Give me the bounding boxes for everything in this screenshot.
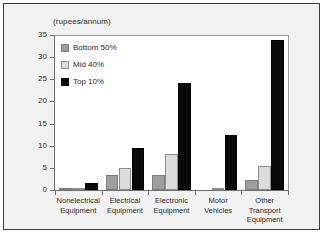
y-axis-tick-label: 30 <box>25 53 47 61</box>
y-axis-tick-label: 35 <box>25 31 47 39</box>
x-axis-category-label: ElectricalEquipment <box>102 196 149 215</box>
bar-0-2 <box>152 175 165 191</box>
bar-0-0 <box>59 188 72 190</box>
bar-2-1 <box>132 148 145 191</box>
legend-label: Mid 40% <box>73 60 104 69</box>
bar-1-4 <box>258 166 271 190</box>
category-label-line: Vehicles <box>195 206 242 216</box>
legend-item: Bottom 50% <box>61 41 135 54</box>
bar-1-2 <box>165 154 178 190</box>
category-label-line: Nonelectrical <box>55 196 102 206</box>
x-axis-tick <box>195 191 196 195</box>
x-axis-category-label: OtherTransportEquipment <box>241 196 288 225</box>
category-label-line: Equipment <box>102 206 149 216</box>
y-axis-tick-label: 5 <box>25 164 47 172</box>
y-axis-tick-label: 0 <box>25 186 47 194</box>
units-caption: (rupees/annum) <box>53 17 111 26</box>
legend-swatch-icon <box>61 44 69 52</box>
bar-chart: (rupees/annum) 05101520253035 Bottom 50%… <box>0 0 325 235</box>
y-axis-tick-label: 20 <box>25 97 47 105</box>
y-axis-tick-label: 15 <box>25 120 47 128</box>
figure-container: (rupees/annum) 05101520253035 Bottom 50%… <box>0 0 325 235</box>
bar-0-1 <box>106 175 119 190</box>
legend-label: Bottom 50% <box>73 43 117 52</box>
y-axis-tick-label: 10 <box>25 142 47 150</box>
bar-1-0 <box>72 188 85 190</box>
legend-label: Top 10% <box>73 77 104 86</box>
category-label-line: Equipment <box>55 206 102 216</box>
category-label-line: Other <box>241 196 288 206</box>
category-label-line: Motor <box>195 196 242 206</box>
x-axis-tick <box>102 191 103 195</box>
x-axis-category-label: MotorVehicles <box>195 196 242 215</box>
bar-0-4 <box>245 180 258 190</box>
chart-legend: Bottom 50%Mid 40%Top 10% <box>61 41 135 92</box>
category-label-line: Electrical <box>102 196 149 206</box>
legend-swatch-icon <box>61 78 69 86</box>
x-axis-tick <box>55 191 56 195</box>
category-label-line: Electronic <box>148 196 195 206</box>
bar-2-3 <box>225 135 238 190</box>
legend-item: Top 10% <box>61 75 135 88</box>
x-axis-category-label: NonelectricalEquipment <box>55 196 102 215</box>
category-label-line: Equipment <box>148 206 195 216</box>
legend-item: Mid 40% <box>61 58 135 71</box>
category-label-line: Transport <box>241 206 288 216</box>
bar-2-4 <box>271 40 284 190</box>
y-axis-tick-label: 25 <box>25 75 47 83</box>
legend-swatch-icon <box>61 61 69 69</box>
bar-1-3 <box>212 188 225 190</box>
x-axis-tick <box>288 191 289 195</box>
x-axis-line <box>54 190 288 191</box>
bar-2-2 <box>178 83 191 190</box>
bar-1-1 <box>119 168 132 190</box>
x-axis-category-label: ElectronicEquipment <box>148 196 195 215</box>
x-axis-tick <box>241 191 242 195</box>
bar-2-0 <box>85 183 98 190</box>
category-label-line: Equipment <box>241 215 288 225</box>
x-axis-tick <box>148 191 149 195</box>
